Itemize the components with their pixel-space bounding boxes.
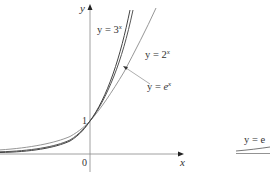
label-3-to-x: y = 3x xyxy=(97,23,123,35)
label-2-to-x: y = 2x xyxy=(145,48,171,60)
exponential-graph: y x 0 1 y = 3x y = 2x y = ex y = e xyxy=(0,0,270,174)
y-intercept-label: 1 xyxy=(82,115,87,126)
partial-panel-label: y = e xyxy=(244,134,265,145)
origin-label: 0 xyxy=(82,157,87,168)
partial-panel-curve xyxy=(236,147,270,151)
curve-2-to-x xyxy=(0,8,156,150)
y-axis-arrow-icon xyxy=(88,4,93,10)
y-axis-label: y xyxy=(79,2,85,14)
x-axis-label: x xyxy=(179,156,185,168)
label-e-to-x: y = ex xyxy=(147,80,172,92)
